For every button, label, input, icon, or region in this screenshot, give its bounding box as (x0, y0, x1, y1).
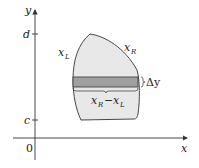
left-boundary-label: x L (58, 46, 70, 61)
x-axis-label: x (181, 142, 188, 155)
svg-text:x: x (91, 94, 98, 107)
svg-text:x: x (113, 94, 120, 107)
svg-text:−: − (104, 94, 113, 107)
diagram-canvas: y x 0 d c x L x R Δy x R − x L (0, 0, 199, 168)
origin-label: 0 (26, 142, 33, 155)
tick-label-d: d (23, 28, 30, 41)
svg-text:R: R (97, 101, 104, 109)
svg-text:x: x (58, 46, 65, 59)
delta-y-label: Δy (146, 76, 161, 89)
svg-text:L: L (64, 53, 70, 61)
y-axis-label: y (24, 4, 32, 17)
svg-text:R: R (130, 48, 137, 56)
tick-label-c: c (24, 114, 30, 127)
svg-text:x: x (124, 41, 131, 54)
region-diagram: y x 0 d c x L x R Δy x R − x L (0, 0, 199, 168)
height-bracket (141, 77, 145, 87)
horizontal-strip (73, 77, 138, 87)
svg-text:L: L (119, 101, 125, 109)
right-boundary-label: x R (124, 41, 137, 56)
